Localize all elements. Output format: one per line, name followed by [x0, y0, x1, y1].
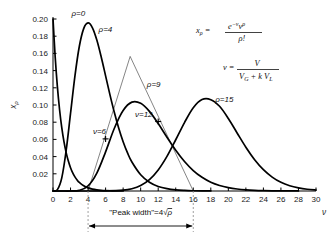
x-tick-label: 26 — [276, 195, 285, 204]
peak-width-label: "Peak width"=4√ρ — [109, 208, 172, 217]
y-tick-label: 0.04 — [32, 153, 48, 162]
poisson-distribution-chart: 0246810121416182022242628300.020.040.060… — [0, 0, 330, 244]
y-tick-label: 0.10 — [32, 101, 48, 110]
x-tick-label: 12 — [154, 195, 163, 204]
y-tick-label: 0.14 — [32, 67, 48, 76]
y-tick-label: 0.12 — [32, 84, 48, 93]
x-tick-label: 24 — [259, 195, 268, 204]
x-tick-label: 2 — [68, 195, 73, 204]
x-tick-label: 20 — [224, 195, 233, 204]
formula-poisson-lhs: xρ = — [195, 26, 210, 36]
formula-nu-numerator: V — [254, 59, 260, 68]
formula-poisson-numerator: e−ννρ — [228, 21, 245, 31]
x-tick-label: 28 — [294, 195, 303, 204]
x-axis-label: ν — [322, 208, 327, 217]
y-tick-label: 0.08 — [32, 118, 48, 127]
curve-label: ρ=15 — [214, 95, 234, 104]
y-tick-label: 0.16 — [32, 49, 48, 58]
curve-label: ρ=9 — [146, 80, 161, 89]
marker-label: ν=6 — [93, 127, 107, 136]
chart-figure: 0246810121416182022242628300.020.040.060… — [0, 0, 330, 244]
y-tick-label: 0.06 — [32, 135, 48, 144]
x-tick-label: 0 — [51, 195, 56, 204]
x-tick-label: 14 — [171, 195, 180, 204]
x-tick-label: 6 — [103, 195, 108, 204]
curve-4 — [53, 23, 211, 191]
y-tick-label: 0.02 — [32, 170, 48, 179]
x-tick-label: 22 — [241, 195, 250, 204]
peak-width-arrow-left — [89, 223, 95, 228]
x-tick-label: 18 — [206, 195, 215, 204]
curve-9 — [53, 102, 298, 191]
curve-label: ρ=4 — [98, 25, 113, 34]
formula-nu-denominator: VG + k VL — [239, 72, 273, 82]
formula-nu-lhs: ν = — [223, 63, 234, 72]
x-tick-label: 30 — [312, 195, 321, 204]
x-tick-label: 8 — [121, 195, 126, 204]
peak-width-arrow-right — [186, 223, 192, 228]
tangent-triangle — [88, 56, 193, 191]
y-axis-label: xρ — [9, 101, 19, 110]
formula-poisson-denominator: ρ! — [238, 34, 246, 43]
y-tick-label: 0.18 — [32, 32, 48, 41]
curve-label: ρ=0 — [70, 9, 85, 18]
x-tick-label: 10 — [136, 195, 145, 204]
y-tick-label: 0.20 — [32, 15, 48, 24]
marker-label: ν=12 — [135, 110, 153, 119]
